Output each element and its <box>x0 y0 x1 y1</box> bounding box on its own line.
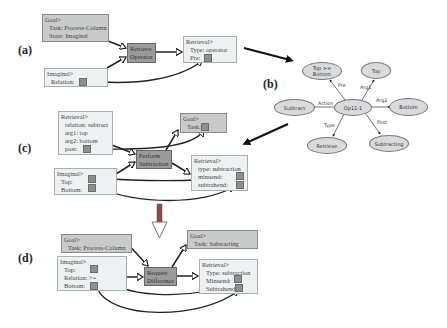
d-retrieval-type: Type: subtraction <box>202 269 255 277</box>
c-imaginal-bottom: Bottom: <box>57 186 114 194</box>
d-operator-node: Request Difference <box>144 267 177 286</box>
c-imaginal-buffer: Imaginal> Top: Bottom: <box>54 168 117 195</box>
b-edge-label-post: Post <box>377 120 387 125</box>
c-goal-title: Goal> <box>183 115 224 123</box>
d-goal-in-task: Task: Process-Column <box>64 244 129 252</box>
b-edge-label-action: Action <box>318 101 333 106</box>
c-retrieval-in-post-slot <box>83 145 91 153</box>
c-operator-node: Perform Subtraction <box>136 150 172 169</box>
a-operator-line2: Operator <box>130 53 153 61</box>
b-node-arg2: Bottom <box>389 98 428 116</box>
c-operator-line1: Perform <box>139 152 169 160</box>
panel-label-c: (c) <box>18 141 31 156</box>
a-imaginal-relation: Relation: <box>47 78 105 86</box>
c-retrieval-in-relation: relation: subtract <box>61 121 110 129</box>
d-retrieval-minuend: Minuend: <box>202 277 255 285</box>
a-retrieval-title: Retrieval> <box>186 38 234 46</box>
c-operator-line2: Subtraction <box>139 160 169 168</box>
a-imaginal-buffer: Imaginal> Relation: <box>44 68 108 87</box>
d-goal-in-buffer: Goal> Task: Process-Column <box>61 234 132 253</box>
c-retrieval-in-arg2: arg2: bottom <box>61 137 110 145</box>
a-goal-title: Goal> <box>45 16 106 24</box>
b-node-pre: Top >= Bottom <box>302 62 342 80</box>
a-goal-buffer: Goal> Task: Process-Column State: Imagin… <box>42 14 109 42</box>
d-imaginal-buffer: Imaginal> Top: Relation: >= Bottom: <box>57 256 127 291</box>
b-node-arg1: Top <box>361 62 391 79</box>
panel-label-a: (a) <box>18 43 32 58</box>
c-imaginal-title: Imaginal> <box>57 170 114 178</box>
b-edge-label-arg2: Arg2 <box>376 98 387 103</box>
d-goal-out-buffer: Goal> Task: Subtracting <box>187 230 258 249</box>
d-goal-out-task: Task: Subtracting <box>190 240 255 248</box>
d-retrieval-subtrahend-slot <box>235 284 243 292</box>
panel-label-d: (d) <box>18 251 33 266</box>
b-node-action: Subtract <box>274 99 315 116</box>
c-retrieval-in-title: Retrieval> <box>61 113 110 121</box>
b-edge-label-pre: Pre <box>338 83 346 88</box>
a-retrieval-buffer: Retrieval> Type: operator Pre: <box>183 36 237 63</box>
d-imaginal-bottom-slot <box>90 282 98 290</box>
d-operator-line1: Request <box>147 269 174 277</box>
a-goal-task: Task: Process-Column <box>45 24 106 32</box>
d-imaginal-top-slot <box>90 265 98 273</box>
a-imaginal-relation-slot <box>79 78 87 86</box>
c-retrieval-in-arg1: arg1: top <box>61 129 110 137</box>
a-operator-node: Retrieve Operator <box>127 43 156 63</box>
d-goal-out-title: Goal> <box>190 232 255 240</box>
panel-label-b: (b) <box>263 77 278 92</box>
a-imaginal-title: Imaginal> <box>47 70 105 78</box>
c-retrieval-out-subtrahend-slot <box>236 181 244 189</box>
b-node-center: Op11-1 <box>334 99 372 116</box>
c-goal-buffer: Goal> Task: <box>180 113 227 133</box>
d-goal-in-title: Goal> <box>64 236 129 244</box>
b-node-type: Retrieve <box>307 137 347 154</box>
a-retrieval-type: Type: operator <box>186 46 234 54</box>
d-operator-line2: Difference <box>147 277 174 285</box>
c-imaginal-bottom-slot <box>88 184 96 192</box>
d-retrieval-buffer: Retrieval> Type: subtraction Minuend: Su… <box>199 259 258 294</box>
a-to-b-arrow <box>244 48 290 60</box>
b-to-c-arrow <box>246 124 288 143</box>
c-retrieval-out-buffer: Retrieval> type: subtraction minuend: su… <box>191 155 248 191</box>
d-retrieval-subtrahend: Subtrahend: <box>202 285 255 293</box>
c-imaginal-top: Top: <box>57 178 114 186</box>
c-imaginal-top-slot <box>88 175 96 183</box>
a-operator-line1: Retrieve <box>130 45 153 53</box>
a-goal-state: State: Imaginal <box>45 32 106 40</box>
b-node-post: Subtracting <box>369 135 409 152</box>
d-retrieval-minuend-slot <box>234 275 242 283</box>
c-to-d-arrow <box>152 204 167 238</box>
c-retrieval-out-minuend-slot <box>236 172 244 180</box>
c-retrieval-in-buffer: Retrieval> relation: subtract arg1: top … <box>58 111 113 155</box>
b-edge-label-type: Type <box>324 123 335 128</box>
d-imaginal-relation: Relation: >= <box>60 274 124 282</box>
b-edge-label-arg1: Arg1 <box>360 85 371 90</box>
c-retrieval-out-title: Retrieval> <box>194 157 245 165</box>
c-goal-task-slot <box>201 123 209 131</box>
d-retrieval-title: Retrieval> <box>202 261 255 269</box>
a-retrieval-pre-slot <box>204 54 212 62</box>
